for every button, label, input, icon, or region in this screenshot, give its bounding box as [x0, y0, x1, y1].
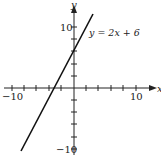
- y-tick-label-neg: −10: [56, 144, 77, 155]
- x-tick-label-neg: −10: [2, 91, 23, 102]
- coordinate-plane: −10 10 10 −10 y x y = 2x + 6: [0, 0, 161, 157]
- y-axis-label: y: [70, 0, 77, 10]
- function-line: [21, 14, 93, 151]
- x-axis-arrow-icon: [149, 85, 157, 91]
- equation-label: y = 2x + 6: [88, 27, 140, 38]
- y-tick-label-pos: 10: [60, 22, 73, 33]
- x-tick-label-pos: 10: [130, 91, 143, 102]
- x-axis-label: x: [157, 83, 161, 94]
